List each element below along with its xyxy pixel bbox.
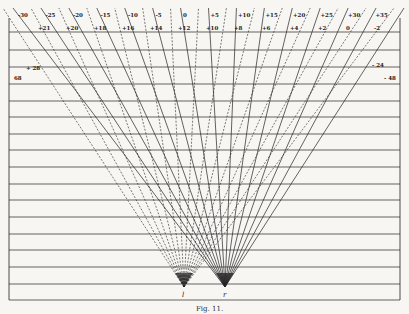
top-scale-label: -10 bbox=[128, 12, 138, 18]
baseline-scale-label: +20 bbox=[66, 25, 78, 31]
side-label-left-lower: 68 bbox=[14, 75, 22, 81]
baseline-scale-label: +21 bbox=[38, 25, 50, 31]
top-scale-label: -20 bbox=[73, 12, 83, 18]
top-scale-label: -25 bbox=[46, 12, 56, 18]
top-scale-label: -15 bbox=[101, 12, 111, 18]
top-scale-label: +25 bbox=[321, 12, 333, 18]
left-eye-label: l bbox=[182, 291, 184, 299]
baseline-scale-label: +12 bbox=[178, 25, 190, 31]
baseline-scale-label: +6 bbox=[262, 25, 271, 31]
top-scale-label: -30 bbox=[18, 12, 28, 18]
baseline-scale-label: +16 bbox=[122, 25, 134, 31]
side-label-right-lower: - 48 bbox=[384, 75, 396, 81]
top-scale-label: +15 bbox=[266, 12, 278, 18]
baseline-scale-label: 0 bbox=[346, 25, 350, 31]
top-scale-labels: -30-25-20-15-10-50+5+10+15+20+25+30+35 bbox=[18, 12, 388, 18]
stereoscopic-ray-diagram: -30-25-20-15-10-50+5+10+15+20+25+30+35 +… bbox=[0, 0, 409, 314]
baseline-scale-label: +10 bbox=[206, 25, 218, 31]
baseline-scale-label: +2 bbox=[318, 25, 327, 31]
figure-caption: Fig. 11. bbox=[196, 305, 223, 313]
top-scale-label: +20 bbox=[293, 12, 305, 18]
top-scale-label: +35 bbox=[376, 12, 388, 18]
side-label-left-upper: + 28 bbox=[26, 65, 40, 71]
baseline-scale-label: +14 bbox=[150, 25, 162, 31]
top-scale-label: +30 bbox=[348, 12, 360, 18]
baseline-scale-label: +8 bbox=[234, 25, 243, 31]
top-scale-label: +5 bbox=[211, 12, 220, 18]
top-scale-label: +10 bbox=[238, 12, 250, 18]
top-scale-label: 0 bbox=[183, 12, 187, 18]
top-scale-label: -5 bbox=[156, 12, 162, 18]
side-label-right-upper: - 24 bbox=[372, 62, 384, 68]
right-eye-label: r bbox=[223, 291, 227, 299]
baseline-scale-label: +4 bbox=[290, 25, 299, 31]
baseline-scale-labels: +21+20+18+16+14+12+10+8+6+4+20-2 bbox=[38, 25, 380, 31]
baseline-scale-label: -2 bbox=[374, 25, 380, 31]
baseline-scale-label: +18 bbox=[94, 25, 106, 31]
